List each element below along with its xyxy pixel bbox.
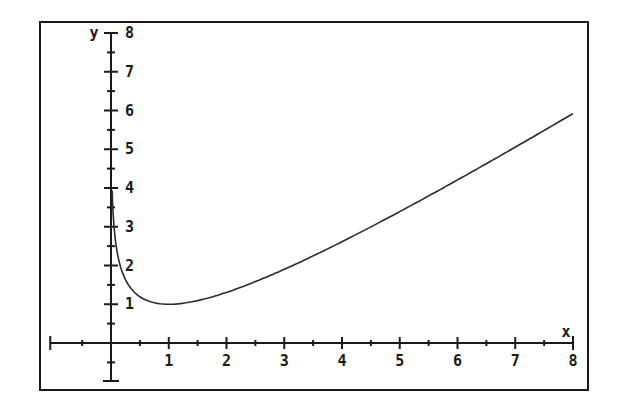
y-tick-label: 4 bbox=[125, 179, 134, 197]
tick-labels: 1234567812345678 bbox=[125, 24, 578, 370]
x-tick-label: 5 bbox=[395, 352, 404, 370]
y-tick-label: 5 bbox=[125, 140, 134, 158]
x-tick-label: 3 bbox=[280, 352, 289, 370]
chart: 1234567812345678 x y bbox=[0, 0, 622, 420]
y-tick-label: 7 bbox=[125, 63, 134, 81]
x-tick-label: 7 bbox=[511, 352, 520, 370]
y-axis-label: y bbox=[89, 24, 98, 42]
tick-marks bbox=[50, 33, 573, 381]
x-tick-label: 4 bbox=[337, 352, 346, 370]
x-tick-label: 8 bbox=[568, 352, 577, 370]
y-tick-label: 6 bbox=[125, 102, 134, 120]
y-tick-label: 8 bbox=[125, 24, 134, 42]
y-tick-label: 3 bbox=[125, 218, 134, 236]
x-tick-label: 1 bbox=[164, 352, 173, 370]
y-tick-label: 2 bbox=[125, 257, 134, 275]
y-tick-label: 1 bbox=[125, 295, 134, 313]
x-tick-label: 2 bbox=[222, 352, 231, 370]
function-curve bbox=[112, 114, 573, 305]
x-tick-label: 6 bbox=[453, 352, 462, 370]
axes bbox=[50, 33, 573, 381]
x-axis-label: x bbox=[561, 323, 570, 341]
chart-frame bbox=[40, 22, 588, 390]
